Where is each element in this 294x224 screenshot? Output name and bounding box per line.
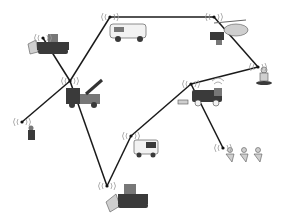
antenna-icon — [212, 15, 215, 18]
antenna-node-bulldozer-bottom — [99, 182, 116, 190]
antenna-node-crane-truck — [62, 77, 79, 85]
network-link — [191, 67, 258, 84]
ambulance-icon — [134, 140, 158, 158]
antenna-icon — [105, 184, 108, 187]
antenna-icon — [41, 36, 44, 39]
network-link — [70, 17, 110, 81]
antenna-icon — [108, 15, 111, 18]
helicopter-icon — [210, 20, 248, 45]
rescuer-person-icon — [256, 67, 272, 85]
walking-person-icon — [28, 126, 35, 141]
antenna-icon — [189, 82, 192, 85]
van-icon — [110, 24, 146, 42]
bulldozer-icon — [106, 184, 148, 212]
network-link — [107, 136, 131, 186]
network-diagram — [0, 0, 294, 224]
bulldozer-icon — [28, 34, 69, 54]
network-link — [131, 84, 191, 136]
antenna-icon — [20, 120, 23, 123]
antenna-icon — [256, 65, 259, 68]
antenna-node-ambulance — [123, 132, 140, 140]
antenna-node-fire-truck — [183, 80, 200, 88]
antenna-icon — [68, 79, 71, 82]
antenna-icon — [129, 134, 132, 137]
network-link — [22, 81, 70, 122]
debris-icon — [178, 100, 188, 104]
antenna-icon — [221, 146, 224, 149]
antenna-node-walker — [14, 118, 31, 126]
